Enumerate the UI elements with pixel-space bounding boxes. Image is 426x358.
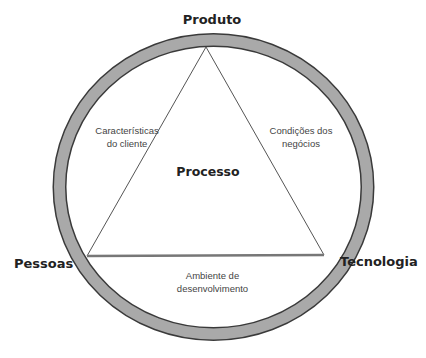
vertex-label-left: Pessoas — [14, 256, 73, 271]
edge-label-bottom-line-2: desenvolvimento — [155, 282, 270, 295]
diagram-graphic — [0, 0, 426, 358]
edge-label-right-line-2: negócios — [252, 137, 350, 150]
process-triangle — [87, 47, 324, 256]
vertex-label-top: Produto — [170, 12, 254, 27]
vertex-label-right: Tecnologia — [340, 254, 418, 269]
triangle-base — [87, 255, 324, 256]
edge-label-left-line-1: Características — [82, 124, 172, 137]
edge-label-left-line-2: do cliente — [82, 137, 172, 150]
center-label: Processo — [163, 164, 253, 179]
edge-label-bottom-line-1: Ambiente de — [155, 269, 270, 282]
edge-label-bottom: Ambiente de desenvolvimento — [155, 269, 270, 295]
edge-label-right: Condições dos negócios — [252, 124, 350, 150]
edge-label-right-line-1: Condições dos — [252, 124, 350, 137]
edge-label-left: Características do cliente — [82, 124, 172, 150]
